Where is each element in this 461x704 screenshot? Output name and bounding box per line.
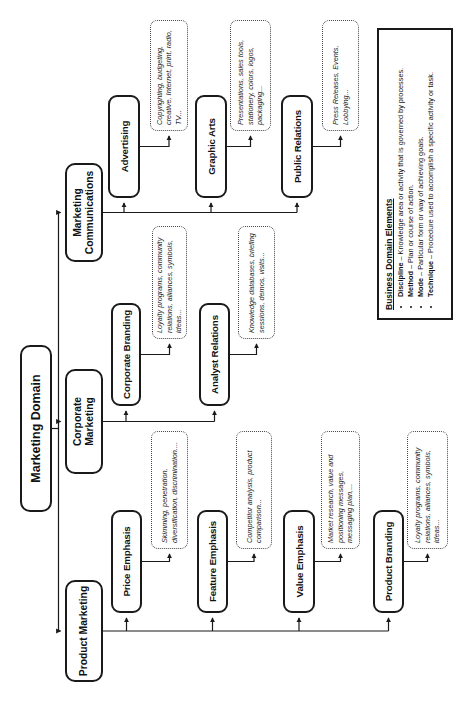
node-marketing-communications: Marketing Communications	[65, 163, 103, 262]
note-price-emphasis: Skimming, penetration, diversification, …	[151, 431, 188, 549]
node-product-marketing: Product Marketing	[65, 580, 103, 682]
note-text: Market research, value and positioning m…	[326, 437, 354, 543]
note-corporate-branding: Loyalty programs, community relations, a…	[152, 226, 187, 339]
note-feature-emphasis: Competitor analysis, product comparison.…	[236, 431, 272, 549]
figure-canvas: Marketing Domain Product Marketing Corpo…	[0, 0, 461, 704]
legend-item: Technique– Procedure used to accomplish …	[426, 38, 436, 297]
legend-definition: – Knowledge area or activity that is gov…	[396, 68, 405, 261]
legend-term: Technique	[426, 261, 435, 297]
legend-term: Discipline	[396, 263, 405, 297]
node-public-relations: Public Relations	[281, 95, 313, 198]
legend-list: Discipline– Knowledge area or activity t…	[396, 38, 436, 310]
legend-box: Business Domain Elements Discipline– Kno…	[377, 28, 453, 320]
note-analyst-relations: Knowledge databases, briefing sessions, …	[238, 226, 275, 339]
node-value-emphasis: Value Emphasis	[283, 510, 315, 613]
note-text: Knowledge databases, briefing sessions, …	[247, 232, 266, 333]
legend-definition: – Particular form or way of achieving go…	[416, 136, 425, 276]
node-corporate-marketing: Corporate Marketing	[65, 369, 103, 474]
legend-title: Business Domain Elements	[384, 38, 394, 310]
note-text: Loyalty programs, community relations, a…	[155, 232, 183, 333]
legend-item: Method– Plan or course of action.	[406, 38, 416, 297]
node-graphic-arts: Graphic Arts	[195, 95, 227, 198]
node-price-emphasis: Price Emphasis	[111, 510, 142, 613]
note-text: Press Releases, Events, Lobbying...	[331, 26, 350, 125]
legend-definition: – Procedure used to accomplish a specifi…	[426, 72, 435, 259]
node-marketing-domain: Marketing Domain	[20, 345, 52, 512]
note-text: Loyalty programs, community relations, a…	[413, 437, 441, 543]
note-text: Skimming, penetration, diversification, …	[160, 437, 179, 543]
diagram-stage: Marketing Domain Product Marketing Corpo…	[0, 0, 461, 704]
note-text: Competitor analysis, product comparison.…	[245, 437, 264, 543]
note-value-emphasis: Market research, value and positioning m…	[321, 431, 360, 549]
node-feature-emphasis: Feature Emphasis	[197, 510, 228, 613]
legend-term: Mode	[416, 278, 425, 297]
note-text: Presentations, sales tools, stationery, …	[236, 26, 264, 125]
note-public-relations: Press Releases, Events, Lobbying...	[322, 20, 359, 131]
note-advertising: Copyrighting, budgeting, creative, Inter…	[150, 20, 188, 131]
legend-definition: – Plan or course of action.	[406, 184, 415, 269]
legend-item: Discipline– Knowledge area or activity t…	[396, 38, 406, 297]
node-advertising: Advertising	[108, 95, 140, 198]
legend-item: Mode– Particular form or way of achievin…	[416, 38, 426, 297]
node-product-branding: Product Branding	[373, 510, 404, 613]
node-corporate-branding: Corporate Branding	[111, 303, 141, 406]
legend-term: Method	[406, 271, 415, 297]
node-analyst-relations: Analyst Relations	[199, 303, 230, 406]
note-product-branding: Loyalty programs, community relations, a…	[407, 431, 448, 549]
note-text: Copyrighting, budgeting, creative, Inter…	[155, 26, 183, 125]
note-graphic-arts: Presentations, sales tools, stationery, …	[230, 20, 271, 131]
